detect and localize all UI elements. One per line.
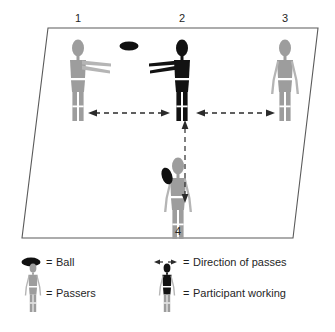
diagram-container: 1 2 3 4 = Ball = Passers = D [0, 0, 335, 332]
legend-direction-equals: = [183, 256, 189, 268]
legend-item-ball: = Ball [22, 256, 75, 268]
pass-arrow-1-2 [88, 110, 170, 117]
player-2-number: 2 [179, 12, 185, 24]
legend-item-direction: = Direction of passes [154, 256, 287, 268]
player-4-number: 4 [175, 225, 181, 237]
legend: = Ball = Passers = Direction of passes [22, 256, 288, 312]
legend-direction-label: Direction of passes [193, 256, 287, 268]
legend-passers-equals: = [46, 287, 52, 299]
legend-ball-label: Ball [56, 256, 74, 268]
legend-passers-label: Passers [56, 287, 96, 299]
player-3[interactable] [271, 40, 299, 122]
player-1-number: 1 [75, 12, 81, 24]
legend-item-passers: = Passers [25, 263, 96, 312]
court-parallelogram [22, 28, 318, 238]
participant-figure-icon [159, 263, 175, 312]
ball-in-flight-icon [120, 41, 139, 50]
legend-item-participant: = Participant working [159, 263, 286, 312]
passer-figure-icon [25, 263, 41, 312]
legend-participant-label: Participant working [193, 287, 286, 299]
player-1[interactable] [70, 40, 111, 122]
legend-participant-equals: = [183, 287, 189, 299]
player-2[interactable] [149, 40, 190, 122]
diagram-svg: 1 2 3 4 = Ball = Passers = D [0, 0, 335, 332]
pass-arrow-2-3 [196, 110, 275, 117]
double-arrow-icon [154, 260, 177, 265]
legend-ball-equals: = [46, 256, 52, 268]
player-3-number: 3 [282, 12, 288, 24]
